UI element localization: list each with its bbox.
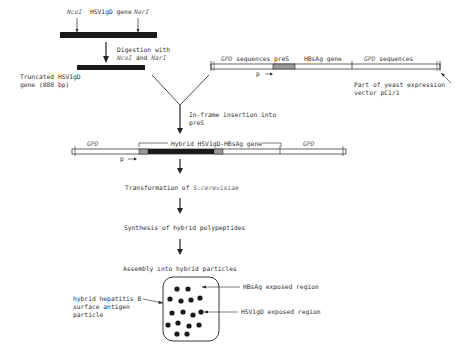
transformation-step-label: Transformation of S.cerevisiae	[125, 184, 239, 192]
hsv1gd-gene-label: HSV1gD gene	[90, 8, 132, 16]
hbsag-gene-label: HBsAg gene	[304, 55, 342, 63]
truncated-gene-label-line1: Truncated HSV1gD	[20, 73, 81, 81]
vector-caption-line2: vector pC1/1	[354, 89, 400, 97]
vector-bar	[211, 61, 451, 83]
ncoi-site-label: NcoI	[67, 8, 82, 16]
insertion-label-line1: In-frame insertion into	[189, 111, 276, 119]
vector-gpd-left-label: GPD sequences	[221, 55, 270, 63]
synthesis-step-label: Synthesis of hybrid polypeptides	[124, 224, 245, 232]
particle-label-line3: particle	[73, 311, 103, 319]
hybrid-promoter-label: p	[120, 155, 124, 163]
truncated-gene-bar	[77, 65, 145, 70]
hybrid-gpd-right-label: GPD	[303, 140, 314, 148]
pres-label: preS	[274, 55, 289, 63]
insertion-label-line2: preS	[189, 119, 204, 127]
hybrid-gpd-left-label: GPD	[87, 140, 98, 148]
digestion-label-line2: NcoI and NarI	[117, 54, 166, 62]
vector-caption-line1: Part of yeast expression	[354, 81, 445, 89]
digestion-label-line1: Digestion with	[117, 46, 170, 54]
convergence-right	[180, 75, 209, 105]
nari-site-label: NarI	[134, 8, 149, 16]
assembly-step-label: Assembly into hybrid particles	[123, 265, 237, 273]
hbsag-exposed-region-label: HBsAg exposed region	[243, 283, 319, 291]
vector-gpd-right-label: GPD sequences	[364, 55, 413, 63]
hsv1gd-exposed-region-label: HSV1gD exposed region	[241, 308, 321, 316]
convergence-left	[152, 75, 180, 105]
truncated-gene-label-line2: gene (888 bp)	[20, 81, 69, 89]
hybrid-gene-label: Hybrid HSV1gD-HBsAg gene	[171, 140, 262, 148]
hsv1gd-gene-bar	[60, 18, 157, 38]
particle-label-line1: hybrid hepatitis B	[73, 295, 141, 303]
diagram-graphics	[0, 0, 459, 355]
hybrid-particle	[163, 277, 219, 341]
particle-label-line2: surface antigen	[73, 303, 130, 311]
vector-promoter-label: p	[256, 70, 260, 78]
